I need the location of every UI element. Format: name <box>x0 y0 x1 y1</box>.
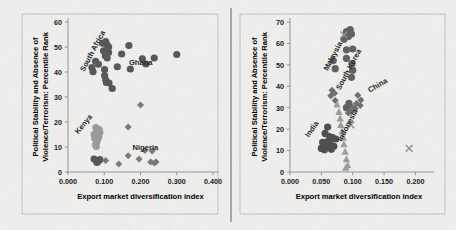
data-point-circle <box>93 159 100 166</box>
data-point-triangle <box>335 108 342 115</box>
y-tick-label: 50 <box>54 43 62 52</box>
x-axis-title: Export market diversification index <box>296 192 423 201</box>
data-point-diamond <box>125 124 132 131</box>
data-point-circle <box>343 46 350 53</box>
y-tick-label: 50 <box>276 61 284 70</box>
data-point-circle <box>118 50 125 57</box>
x-tick-label: 0.400 <box>204 177 222 186</box>
right-chart-svg: 0.0000.0500.1000.1500.200010203040506070… <box>228 0 456 230</box>
data-point-diamond <box>115 161 122 168</box>
data-point-circle <box>104 54 111 61</box>
y-tick-label: 20 <box>54 118 62 127</box>
annotation-india: India <box>303 119 321 139</box>
annotation-nigeria: Nigeria <box>133 143 160 152</box>
left-annotations: South AfricaGhanaKenyaNigeria <box>73 28 159 151</box>
left-scatter-panel: 0.0000.1000.2000.3000.4000102030405060 S… <box>0 0 228 230</box>
y-tick-label: 0 <box>58 168 62 177</box>
y-tick-label: 30 <box>276 104 284 113</box>
y-axis-title-line-2: Violence/Terrorism: Percentile Rank <box>41 31 50 161</box>
data-point-circle <box>109 85 116 92</box>
y-tick-label: 30 <box>54 93 62 102</box>
data-point-circle <box>93 143 100 150</box>
annotation-china: China <box>366 76 389 95</box>
data-point-circle <box>89 68 96 75</box>
x-tick-label: 0.050 <box>312 177 330 186</box>
data-point-diamond <box>136 156 143 163</box>
data-point-diamond <box>137 102 144 109</box>
right-scatter-panel: 0.0000.0500.1000.1500.200010203040506070… <box>228 0 456 230</box>
y-axis-title-line-2: Violence/Terrorism: Percentile Rank <box>260 31 269 161</box>
left-chart-svg: 0.0000.1000.2000.3000.4000102030405060 S… <box>0 0 228 230</box>
data-point-circle <box>324 123 331 130</box>
data-point-circle <box>319 139 326 146</box>
x-axis-title: Export market diversification index <box>77 192 204 201</box>
data-point-diamond <box>102 157 109 164</box>
data-point-circle <box>114 63 121 70</box>
y-tick-label: 10 <box>54 143 62 152</box>
y-tick-label: 10 <box>276 146 284 155</box>
two-panel-scatter-figure: 0.0000.1000.2000.3000.4000102030405060 S… <box>0 0 456 230</box>
data-point-circle <box>332 65 339 72</box>
data-point-circle <box>318 145 325 152</box>
y-tick-label: 20 <box>276 125 284 134</box>
data-point-circle <box>173 51 180 58</box>
data-point-circle <box>125 42 132 49</box>
x-tick-label: 0.000 <box>59 177 77 186</box>
plot-frame <box>22 14 218 214</box>
x-tick-label: 0.200 <box>132 177 150 186</box>
x-tick-label: 0.150 <box>375 177 393 186</box>
y-tick-label: 70 <box>276 18 284 27</box>
series-nigeria <box>102 102 159 168</box>
data-point-triangle <box>337 114 344 121</box>
left-plot-frame <box>22 14 218 214</box>
y-tick-label: 40 <box>54 68 62 77</box>
y-tick-label: 60 <box>276 39 284 48</box>
y-tick-label: 40 <box>276 82 284 91</box>
data-point-triangle <box>343 155 350 162</box>
x-tick-label: 0.200 <box>406 177 424 186</box>
x-tick-label: 0.000 <box>281 177 299 186</box>
data-point-diamond <box>125 152 132 159</box>
y-tick-label: 0 <box>280 168 284 177</box>
y-tick-label: 60 <box>54 18 62 27</box>
data-point-circle <box>96 129 103 136</box>
data-point-x <box>406 145 413 152</box>
data-point-triangle <box>342 148 349 155</box>
x-tick-label: 0.300 <box>168 177 186 186</box>
series-kenya <box>91 124 104 150</box>
x-tick-label: 0.100 <box>95 177 113 186</box>
series-south-africa-cluster-low <box>91 155 104 166</box>
annotation-ghana: Ghana <box>129 58 153 67</box>
data-point-circle <box>328 146 335 153</box>
x-tick-label: 0.100 <box>344 177 362 186</box>
data-point-circle <box>95 61 102 68</box>
y-axis-title-line-1: Political Stability and Absence of <box>250 37 259 157</box>
y-axis-title-line-1: Political Stability and Absence of <box>31 37 40 157</box>
